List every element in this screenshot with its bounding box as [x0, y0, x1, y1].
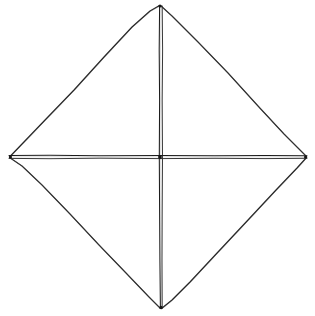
upper-right-edge-texture [161, 6, 307, 157]
horizontal-diagonal-stroke-b [9, 158, 307, 159]
right-vertex-marker [304, 156, 307, 159]
upper-right-edge [161, 6, 307, 157]
horizontal-diagonal [9, 155, 307, 158]
top-vertex-marker [158, 4, 161, 7]
bottom-vertex-marker [159, 306, 162, 309]
upper-left-edge-texture [10, 6, 160, 158]
drawing-canvas [0, 0, 315, 316]
horizontal-diagonal-core [9, 157, 307, 158]
center-intersection-marker [158, 155, 162, 159]
rhombus-figure [0, 0, 315, 316]
horizontal-diagonal-stroke-a [9, 155, 307, 156]
lower-left-edge [10, 158, 161, 309]
left-vertex-marker [9, 156, 12, 159]
lower-right-edge [162, 158, 307, 309]
